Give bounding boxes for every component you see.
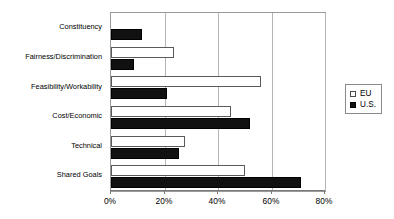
bar-us-constituency	[111, 29, 142, 40]
filled-square-icon	[350, 102, 356, 108]
plot-inner	[111, 13, 325, 191]
bar-eu-cost-economic	[111, 106, 231, 117]
bar-eu-fairness-discrimination	[111, 47, 174, 58]
legend-entry-us: U.S.	[350, 99, 376, 110]
y-axis-tick-label: Technical	[0, 141, 102, 150]
bar-eu-shared-goals	[111, 165, 245, 176]
x-axis-tick-label: 80%	[304, 196, 344, 206]
bar-group	[111, 135, 325, 159]
bar-group	[111, 75, 325, 99]
plot-area	[110, 12, 326, 192]
y-axis-tick-label: Fairness/Discrimination	[0, 52, 102, 61]
x-axis-tick	[271, 190, 272, 194]
bar-chart: Constituency Fairness/Discrimination Fea…	[0, 0, 394, 219]
bar-us-feasibility-workability	[111, 88, 167, 99]
bar-us-technical	[111, 148, 179, 159]
bar-group	[111, 46, 325, 70]
x-axis-tick	[324, 190, 325, 194]
y-axis-tick-label: Feasibility/Workability	[0, 82, 102, 91]
legend-entry-eu: EU	[350, 88, 376, 99]
legend-label-eu: EU	[360, 89, 371, 99]
x-axis-tick-label: 0%	[90, 196, 130, 206]
bar-us-shared-goals	[111, 177, 301, 188]
x-axis-tick	[110, 190, 111, 194]
y-axis-tick-label: Cost/Economic	[0, 111, 102, 120]
legend-label-us: U.S.	[360, 100, 376, 110]
bar-us-cost-economic	[111, 118, 250, 129]
gridline	[325, 13, 326, 191]
chart-legend: EU U.S.	[345, 84, 382, 114]
bar-group	[111, 105, 325, 129]
x-axis-tick	[217, 190, 218, 194]
x-axis-tick	[164, 190, 165, 194]
hollow-square-icon	[350, 91, 356, 97]
y-axis-tick-label: Shared Goals	[0, 170, 102, 179]
bar-us-fairness-discrimination	[111, 59, 134, 70]
bar-eu-technical	[111, 136, 185, 147]
y-axis-tick-label: Constituency	[0, 22, 102, 31]
y-axis-category-labels: Constituency Fairness/Discrimination Fea…	[0, 12, 106, 190]
x-axis-tick-label: 40%	[197, 196, 237, 206]
bar-group	[111, 16, 325, 40]
bar-group	[111, 164, 325, 188]
bar-eu-feasibility-workability	[111, 76, 261, 87]
x-axis-tick-label: 60%	[251, 196, 291, 206]
x-axis-tick-label: 20%	[144, 196, 184, 206]
